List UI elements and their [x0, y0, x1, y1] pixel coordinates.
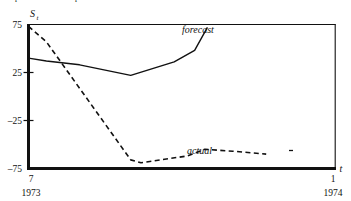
figure-container: Expected value of expectations 75 25 –25… — [0, 0, 351, 201]
x-tick-label-left: 7 — [29, 174, 34, 184]
x-tick-label-right: 1 — [331, 174, 336, 184]
x-year-label-right: 1974 — [324, 188, 343, 198]
series-line-forecast — [29, 27, 208, 75]
y-axis-title-base: S — [30, 8, 35, 19]
y-tick-label-75: 75 — [13, 20, 23, 30]
x-axis-title: t — [340, 163, 343, 174]
y-axis-title: S t — [30, 8, 40, 22]
y-axis-title-subscript: t — [37, 14, 40, 22]
series-label-forecast: forecast — [182, 24, 214, 35]
series-line-actual — [29, 26, 267, 162]
series-label-actual: actual — [187, 145, 212, 156]
y-tick-label-25: 25 — [13, 68, 23, 78]
line-chart: 75 25 –25 –75 S t 7 1973 1 1974 t foreca… — [0, 0, 351, 201]
series-group — [29, 26, 267, 162]
x-year-label-left: 1973 — [22, 188, 41, 198]
y-axis-labels: 75 25 –25 –75 — [7, 20, 23, 174]
y-tick-label-neg25: –25 — [7, 116, 23, 126]
plot-frame — [27, 24, 336, 170]
y-tick-label-neg75: –75 — [7, 164, 23, 174]
